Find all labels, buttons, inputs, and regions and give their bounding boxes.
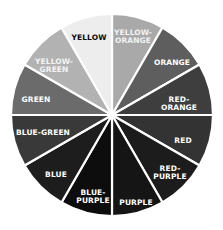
segment-label-yellow: YELLOW <box>71 34 106 42</box>
segment-label-purple: PURPLE <box>119 199 152 207</box>
segment-label-red-orange: RED-ORANGE <box>157 96 201 112</box>
segment-label-yellow-green: YELLOW- GREEN <box>35 58 73 74</box>
segment-label-red-purple: RED- PURPLE <box>153 165 186 181</box>
segment-label-green: GREEN <box>22 96 51 104</box>
segment-label-yellow-orange: YELLOW- ORANGE <box>114 29 152 45</box>
segment-label-orange: ORANGE <box>154 59 190 67</box>
color-wheel <box>0 0 223 230</box>
wheel-segments <box>11 14 213 216</box>
segment-label-blue-green: BLUE-GREEN <box>16 129 70 137</box>
segment-label-blue-purple: BLUE- PURPLE <box>76 189 109 205</box>
segment-label-blue: BLUE <box>45 171 67 179</box>
segment-label-red: RED <box>174 137 191 145</box>
